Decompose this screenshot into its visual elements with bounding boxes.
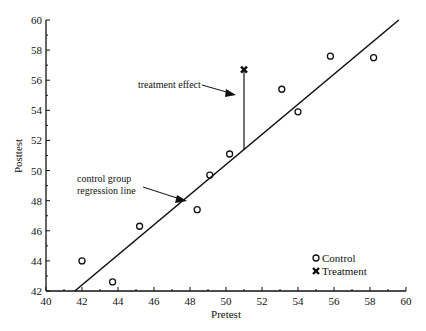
regression-label-line1: control group xyxy=(77,173,131,184)
y-tick-label: 48 xyxy=(31,195,43,207)
x-tick-label: 44 xyxy=(113,295,125,307)
x-tick-label: 48 xyxy=(185,295,197,307)
y-tick-label: 50 xyxy=(31,165,43,177)
legend-treatment-label: Treatment xyxy=(322,265,367,277)
x-tick-label: 54 xyxy=(293,295,305,307)
regression-label-line2: regression line xyxy=(77,185,136,196)
y-tick-label: 58 xyxy=(31,44,43,56)
control-point xyxy=(137,223,143,229)
x-tick-label: 42 xyxy=(77,295,88,307)
legend-treatment-marker-icon xyxy=(313,268,319,274)
legend-control-label: Control xyxy=(322,252,356,264)
axes xyxy=(46,20,406,291)
legend: Control Treatment xyxy=(313,252,367,277)
legend-control-marker-icon xyxy=(313,255,319,261)
control-point xyxy=(194,207,200,213)
y-axis-ticks: 42444648505254565860 xyxy=(31,14,50,297)
control-point xyxy=(295,109,301,115)
x-tick-label: 40 xyxy=(41,295,53,307)
control-point xyxy=(110,279,116,285)
y-tick-label: 42 xyxy=(31,285,42,297)
x-tick-label: 50 xyxy=(221,295,233,307)
y-tick-label: 60 xyxy=(31,14,43,26)
x-tick-label: 56 xyxy=(329,295,341,307)
y-axis-title: Posttest xyxy=(12,139,24,173)
x-tick-label: 60 xyxy=(401,295,413,307)
control-point xyxy=(279,86,285,92)
x-tick-label: 58 xyxy=(365,295,377,307)
x-axis-ticks: 4042444648505254565860 xyxy=(41,287,413,307)
treatment-effect-arrow-icon xyxy=(202,85,236,97)
control-point xyxy=(227,151,233,157)
control-point xyxy=(371,55,377,61)
control-point xyxy=(79,258,85,264)
y-tick-label: 46 xyxy=(31,225,43,237)
y-tick-label: 56 xyxy=(31,74,43,86)
x-tick-label: 52 xyxy=(257,295,268,307)
control-point xyxy=(327,53,333,59)
regression-line xyxy=(75,20,399,291)
scatter-chart: 4042444648505254565860 42444648505254565… xyxy=(0,0,426,331)
y-tick-label: 54 xyxy=(31,104,43,116)
y-tick-label: 44 xyxy=(31,255,43,267)
treatment-effect-label: treatment effect xyxy=(138,79,201,90)
x-axis-title: Pretest xyxy=(211,308,241,320)
regression-arrow-icon xyxy=(143,187,187,203)
x-tick-label: 46 xyxy=(149,295,161,307)
y-tick-label: 52 xyxy=(31,134,42,146)
